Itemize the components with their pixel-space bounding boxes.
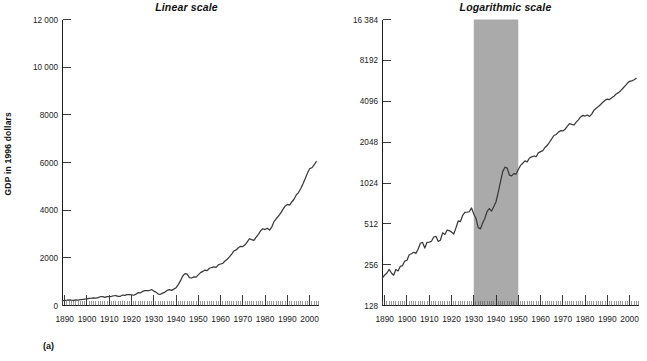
x-tick-label: 1980 xyxy=(256,314,275,324)
x-tick-label: 2000 xyxy=(620,314,639,324)
panel-b-x-tick-labels: 1890190019101920193019401950196019701980… xyxy=(375,314,639,324)
panel-b-ytick-1024: 1024 xyxy=(360,179,379,188)
panel-b-y-tick-labels: 16 384 8192 4096 2048 1024 512 256 128 xyxy=(353,16,378,311)
x-tick-label: 1950 xyxy=(509,314,528,324)
x-tick-label: 1940 xyxy=(487,314,506,324)
panel-b-ytick-128: 128 xyxy=(364,302,378,311)
x-tick-label: 1960 xyxy=(531,314,550,324)
panel-a-ytick-6000: 6000 xyxy=(40,159,59,168)
x-tick-label: 1990 xyxy=(278,314,297,324)
panel-a-ytick-0: 0 xyxy=(53,302,58,311)
x-tick-label: 1990 xyxy=(598,314,617,324)
x-tick-label: 1980 xyxy=(576,314,595,324)
x-tick-label: 1890 xyxy=(375,314,394,324)
panel-a-data-line xyxy=(63,162,317,301)
x-tick-label: 1890 xyxy=(55,314,74,324)
x-tick-label: 2000 xyxy=(300,314,319,324)
panel-a-caption: (a) xyxy=(43,341,54,351)
panel-a-y-ticks xyxy=(63,20,71,306)
x-tick-label: 1910 xyxy=(420,314,439,324)
panel-a-ytick-2000: 2000 xyxy=(40,254,59,263)
panel-b-ytick-16384: 16 384 xyxy=(353,16,378,25)
panel-linear-scale: Linear scale GDP in 1996 dollars 12 000 … xyxy=(0,0,323,361)
panel-a-ytick-12000: 12 000 xyxy=(33,16,58,25)
panel-b-ytick-256: 256 xyxy=(364,261,378,270)
x-tick-label: 1900 xyxy=(398,314,417,324)
x-tick-label: 1900 xyxy=(78,314,97,324)
x-tick-label: 1970 xyxy=(233,314,252,324)
x-tick-label: 1970 xyxy=(553,314,572,324)
x-tick-label: 1960 xyxy=(211,314,230,324)
panel-b-ytick-4096: 4096 xyxy=(360,97,379,106)
panel-b-ytick-512: 512 xyxy=(364,220,378,229)
panel-b-ytick-2048: 2048 xyxy=(360,138,379,147)
panel-a-ytick-4000: 4000 xyxy=(40,206,59,215)
panel-b-y-ticks xyxy=(383,20,391,306)
panel-b-shaded-region xyxy=(474,20,519,306)
panel-a-plot: 12 000 10 000 8000 6000 4000 2000 0 1890… xyxy=(0,0,323,361)
x-tick-label: 1940 xyxy=(167,314,186,324)
x-tick-label: 1920 xyxy=(442,314,461,324)
panel-logarithmic-scale: Logarithmic scale 16 384 8 xyxy=(324,0,647,361)
panel-b-plot: 16 384 8192 4096 2048 1024 512 256 128 1… xyxy=(324,0,647,361)
x-tick-label: 1930 xyxy=(464,314,483,324)
x-tick-label: 1910 xyxy=(100,314,119,324)
panel-a-x-tick-labels: 1890190019101920193019401950196019701980… xyxy=(55,314,319,324)
figure-root: Linear scale GDP in 1996 dollars 12 000 … xyxy=(0,0,647,361)
x-tick-label: 1930 xyxy=(144,314,163,324)
panel-a-ytick-8000: 8000 xyxy=(40,111,59,120)
panel-b-ytick-8192: 8192 xyxy=(360,56,379,65)
x-tick-label: 1950 xyxy=(189,314,208,324)
x-tick-label: 1920 xyxy=(122,314,141,324)
panel-a-ytick-10000: 10 000 xyxy=(33,63,58,72)
panel-a-y-tick-labels: 12 000 10 000 8000 6000 4000 2000 0 xyxy=(33,16,58,311)
